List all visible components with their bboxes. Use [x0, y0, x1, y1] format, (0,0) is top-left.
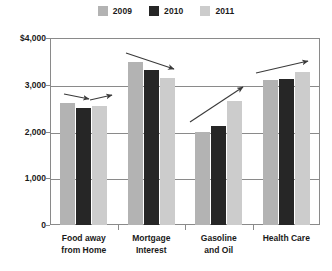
x-axis-tick: [185, 225, 186, 230]
x-axis-label: Food awayfrom Home: [50, 233, 118, 256]
x-axis-labels: Food awayfrom HomeMortgageInterestGasoli…: [50, 233, 320, 269]
x-axis-label-line: Health Care: [253, 233, 321, 245]
x-axis-label-line: Interest: [118, 245, 186, 257]
bar-2011[interactable]: [227, 101, 242, 225]
legend-label-2009: 2009: [113, 7, 132, 16]
y-axis-label-1000: 1,000: [0, 174, 46, 183]
legend-label-2010: 2010: [164, 7, 183, 16]
legend-entry-2010: 2010: [149, 6, 183, 16]
x-axis-tick: [253, 225, 254, 230]
chart-legend: 2009 2010 2011: [0, 6, 332, 16]
x-axis-label: Health Care: [253, 233, 321, 245]
x-axis-label: Gasolineand Oil: [185, 233, 253, 256]
bars-layer: [50, 38, 320, 225]
bar-2010[interactable]: [76, 108, 91, 225]
legend-swatch-2011: [200, 6, 210, 16]
bar-group: [128, 38, 175, 225]
bar-2009[interactable]: [128, 62, 143, 225]
legend-swatch-2010: [149, 6, 159, 16]
x-axis-label-line: Gasoline: [185, 233, 253, 245]
bar-2009[interactable]: [60, 103, 75, 225]
bar-group: [195, 38, 242, 225]
x-axis-tick: [118, 225, 119, 230]
y-axis-label-4000: $4,000: [0, 34, 46, 43]
bar-2011[interactable]: [160, 78, 175, 225]
x-axis-label-line: and Oil: [185, 245, 253, 257]
legend-entry-2009: 2009: [98, 6, 132, 16]
y-axis: $4,000 3,000 2,000 1,000 0: [0, 0, 46, 271]
bar-chart: 2009 2010 2011 $4,000 3,000 2,000 1,000 …: [0, 0, 332, 271]
bar-2010[interactable]: [144, 70, 159, 225]
bar-2011[interactable]: [92, 106, 107, 225]
x-axis-label-line: Food away: [50, 233, 118, 245]
bar-2009[interactable]: [263, 80, 278, 225]
bar-2010[interactable]: [279, 79, 294, 225]
bar-2009[interactable]: [195, 132, 210, 226]
bar-group: [263, 38, 310, 225]
x-axis-ticks: [50, 225, 320, 230]
x-axis-label-line: from Home: [50, 245, 118, 257]
bar-2011[interactable]: [295, 72, 310, 225]
y-axis-label-3000: 3,000: [0, 81, 46, 90]
y-axis-label-0: 0: [0, 221, 46, 230]
bar-group: [60, 38, 107, 225]
legend-label-2011: 2011: [215, 7, 234, 16]
bar-2010[interactable]: [211, 126, 226, 225]
x-axis-label: MortgageInterest: [118, 233, 186, 256]
y-axis-label-2000: 2,000: [0, 127, 46, 136]
x-axis-label-line: Mortgage: [118, 233, 186, 245]
legend-swatch-2009: [98, 6, 108, 16]
legend-entry-2011: 2011: [200, 6, 234, 16]
